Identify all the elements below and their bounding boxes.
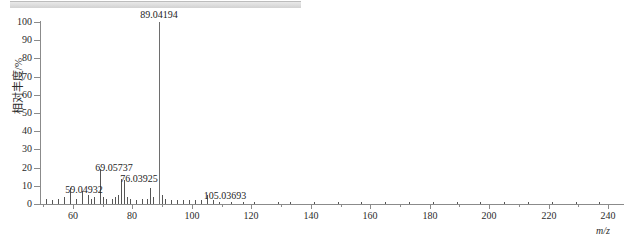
x-axis-tick-minor [103,204,104,207]
y-axis-tick-label: 100 [0,17,32,27]
x-axis-tick-major [549,204,550,209]
spectrum-peak [142,199,143,204]
spectrum-peak [433,202,434,204]
x-axis-tick-minor [400,204,401,207]
y-axis-tick [34,77,40,78]
spectrum-peak [177,200,178,204]
y-axis-tick-label: 70 [0,72,32,82]
x-axis-tick-major [132,204,133,209]
x-axis-tick-label: 220 [542,211,557,221]
spectrum-peak [165,199,166,204]
x-axis-tick-minor [519,204,520,207]
spectrum-peak [91,199,92,204]
x-axis-tick-minor [162,204,163,207]
spectrum-peak [552,202,553,204]
spectrum-peak [219,202,220,204]
spectrum-peak [127,197,128,204]
y-axis-tick [34,58,40,59]
y-axis-tick-label: 80 [0,53,32,63]
x-axis-tick-label: 80 [127,211,137,221]
x-axis-tick-major [489,204,490,209]
y-axis-tick-label: 0 [0,199,32,209]
y-axis-tick [34,168,40,169]
spectrum-peak [162,195,163,204]
spectrum-peak [136,200,137,204]
peak-label: 89.04194 [140,10,178,20]
spectrum-peak [243,202,244,204]
spectrum-peak [480,202,481,204]
y-axis-tick-label: 30 [0,144,32,154]
y-axis-tick [34,204,40,205]
x-axis-tick-label: 240 [601,211,616,221]
spectrum-peak [64,197,65,204]
x-axis-tick-minor [459,204,460,207]
spectrum-peak [115,197,116,204]
spectrum-peak [254,202,255,204]
y-axis-tick [34,149,40,150]
spectrum-peak [231,202,232,204]
x-axis-tick-label: 60 [68,211,78,221]
spectrum-peak [171,200,172,204]
spectrum-peak [112,199,113,204]
spectrum-peak [338,202,339,204]
x-axis-tick-major [192,204,193,209]
y-axis-line [40,21,41,205]
spectrum-page: 相对丰度/% m/z 01020304050607080901006080100… [0,0,633,241]
spectrum-peak [58,199,59,204]
y-axis-tick-label: 40 [0,126,32,136]
spectrum-peak [150,188,151,204]
x-axis-tick-label: 120 [244,211,259,221]
spectrum-peak [159,22,160,204]
x-axis-tick-major [251,204,252,209]
y-axis-tick [34,186,40,187]
spectrum-peak [46,199,47,204]
spectrum-peak [457,202,458,204]
x-axis-tick-label: 160 [363,211,378,221]
spectrum-peak [147,199,148,204]
peak-label: 59.04932 [65,185,103,195]
spectrum-peak [290,202,291,204]
x-axis-tick-minor [281,204,282,207]
spectrum-peak [201,200,202,204]
x-axis-tick-label: 180 [423,211,438,221]
spectrum-peak [130,199,131,204]
y-axis-tick-label: 60 [0,90,32,100]
x-axis-tick-major [608,204,609,209]
spectrum-peak [278,202,279,204]
x-axis-tick-label: 200 [482,211,497,221]
spectrum-peak [314,202,315,204]
y-axis-tick-label: 10 [0,181,32,191]
x-axis-tick-minor [341,204,342,207]
peak-label: 69.05737 [95,163,133,173]
spectrum-peak [183,200,184,204]
y-axis-tick [34,131,40,132]
spectrum-peak [195,200,196,204]
spectrum-peak [361,202,362,204]
y-axis-tick [34,22,40,23]
x-axis-tick-minor [222,204,223,207]
x-axis-title: m/z [596,225,610,236]
y-axis-tick [34,113,40,114]
spectrum-peak [94,197,95,204]
spectrum-peak [103,197,104,204]
x-axis-tick-label: 100 [185,211,200,221]
spectrum-peak [385,202,386,204]
peak-label: 105.03693 [204,191,247,201]
y-axis-tick [34,40,40,41]
spectrum-peak [576,202,577,204]
x-axis-tick-major [311,204,312,209]
spectrum-peak [52,200,53,204]
y-axis-tick-label: 90 [0,35,32,45]
x-axis-line [40,204,624,205]
spectrum-peak [504,202,505,204]
spectrum-peak [153,197,154,204]
y-axis-tick-label: 20 [0,163,32,173]
spectrum-peak [106,199,107,204]
spectrum-peak [118,195,119,204]
spectrum-peak [409,202,410,204]
mass-spectrum-chart: 相对丰度/% m/z 01020304050607080901006080100… [0,0,633,241]
x-axis-tick-major [73,204,74,209]
y-axis-tick-label: 50 [0,108,32,118]
peak-label: 76.03925 [120,174,158,184]
spectrum-peak [76,199,77,204]
